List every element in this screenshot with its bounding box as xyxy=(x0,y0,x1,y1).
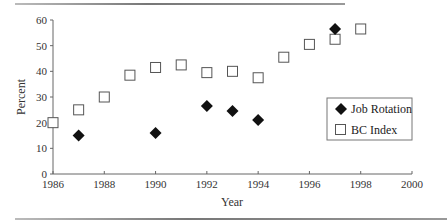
x-tick-label: 1996 xyxy=(298,178,321,190)
bc-index-point xyxy=(279,52,289,62)
y-axis-ticks: 0102030405060 xyxy=(36,14,53,180)
legend-label-job-rotation: Job Rotation xyxy=(351,102,412,116)
legend-label-bc-index: BC Index xyxy=(351,123,397,137)
bc-index-point xyxy=(330,34,340,44)
x-tick-label: 1988 xyxy=(93,178,116,190)
x-tick-label: 1990 xyxy=(145,178,168,190)
y-tick-label: 60 xyxy=(36,14,48,26)
x-tick-label: 2000 xyxy=(401,178,424,190)
x-tick-label: 1986 xyxy=(42,178,65,190)
x-tick-label: 1998 xyxy=(350,178,373,190)
bc-index-point xyxy=(356,24,366,34)
bc-index-point xyxy=(228,66,238,76)
bc-index-point xyxy=(125,70,135,80)
job-rotation-point xyxy=(227,105,239,117)
bc-index-point xyxy=(176,60,186,70)
y-tick-label: 10 xyxy=(36,142,48,154)
legend: Job Rotation BC Index xyxy=(327,98,412,140)
job-rotation-point xyxy=(201,100,213,112)
y-tick-label: 50 xyxy=(36,40,48,52)
job-rotation-point xyxy=(329,23,341,35)
bc-index-point xyxy=(202,68,212,78)
bc-index-point xyxy=(99,92,109,102)
data-points xyxy=(48,23,366,142)
scatter-chart: 0102030405060 19861988199019921994199619… xyxy=(0,0,447,221)
x-tick-label: 1994 xyxy=(247,178,270,190)
bc-index-point xyxy=(48,118,58,128)
job-rotation-point xyxy=(73,130,85,142)
bc-index-point xyxy=(151,62,161,72)
x-tick-label: 1992 xyxy=(196,178,218,190)
job-rotation-point xyxy=(252,114,264,126)
bc-index-point xyxy=(253,73,263,83)
y-axis-title: Percent xyxy=(14,78,28,115)
job-rotation-point xyxy=(150,127,162,139)
bc-index-point xyxy=(304,39,314,49)
open-square-icon xyxy=(336,125,346,135)
legend-item-bc-index: BC Index xyxy=(336,123,398,137)
y-tick-label: 30 xyxy=(36,91,48,103)
y-tick-label: 20 xyxy=(36,117,48,129)
bc-index-point xyxy=(74,105,84,115)
y-tick-label: 40 xyxy=(36,65,48,77)
x-axis-title: Year xyxy=(221,195,243,209)
